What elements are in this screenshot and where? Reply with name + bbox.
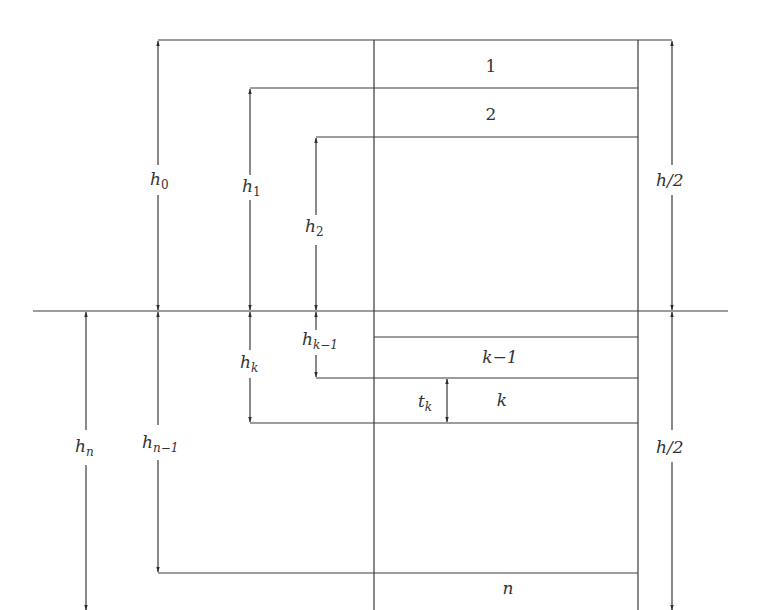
- h0-label: h0: [150, 169, 169, 192]
- half-thickness-top-label: h/2: [656, 170, 684, 190]
- layer-label-2: 2: [486, 104, 497, 124]
- hn-label: hn: [75, 436, 94, 459]
- layer-label-k: k: [497, 390, 507, 410]
- hk-minus-1-label: hk−1: [302, 329, 338, 352]
- hk-label: hk: [240, 352, 258, 375]
- hn-minus-1-label: hn−1: [142, 432, 178, 455]
- layer-label-k-minus-1: k−1: [482, 347, 517, 367]
- layer-label-1: 1: [486, 56, 497, 76]
- h1-label: h1: [242, 176, 261, 199]
- half-thickness-bottom-label: h/2: [656, 437, 684, 457]
- laminate-diagram: 1 2 k−1 k n h0 h1 h2 hk−1 hk hn−1 hn tk …: [0, 0, 763, 610]
- tk-label: tk: [418, 391, 432, 414]
- layer-label-n: n: [503, 578, 514, 598]
- h2-label: h2: [305, 216, 324, 239]
